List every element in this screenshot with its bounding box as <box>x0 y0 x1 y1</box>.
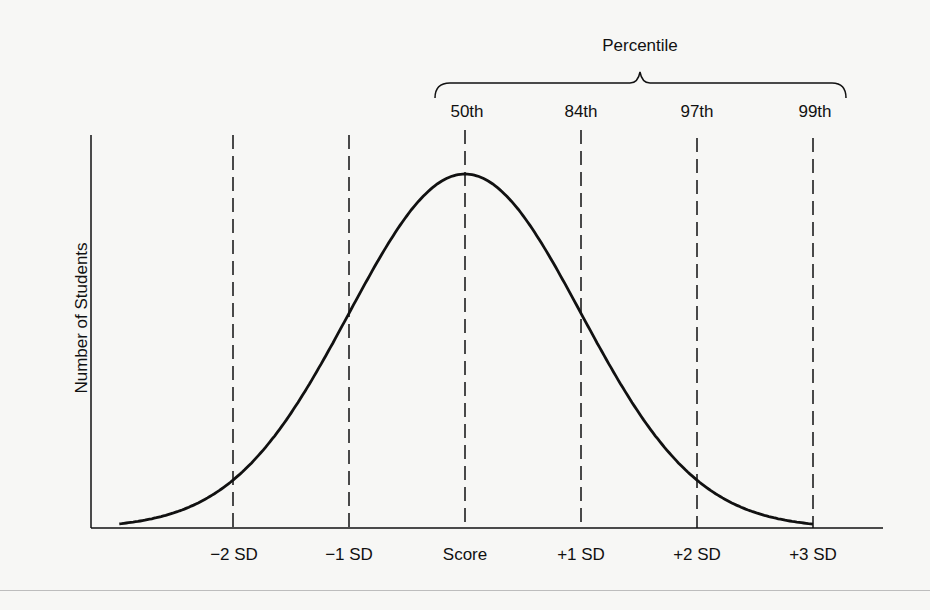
percentile-title: Percentile <box>602 36 678 56</box>
percentile-84th: 84th <box>564 102 597 122</box>
x-tick-plus-1sd: +1 SD <box>557 545 605 565</box>
x-tick-minus-2sd: −2 SD <box>210 545 258 565</box>
percentile-bracket <box>435 72 846 98</box>
y-axis-label: Number of Students <box>72 242 92 393</box>
x-tick-minus-1sd: −1 SD <box>325 545 373 565</box>
x-tick-plus-3sd: +3 SD <box>789 545 837 565</box>
normal-curve-chart <box>0 0 930 610</box>
percentile-97th: 97th <box>680 102 713 122</box>
x-tick-score: Score <box>443 545 487 565</box>
sd-reference-lines <box>233 130 813 528</box>
normal-curve <box>119 174 813 524</box>
x-tick-plus-2sd: +2 SD <box>673 545 721 565</box>
percentile-50th: 50th <box>450 102 483 122</box>
percentile-99th: 99th <box>798 102 831 122</box>
page-divider <box>0 590 930 591</box>
